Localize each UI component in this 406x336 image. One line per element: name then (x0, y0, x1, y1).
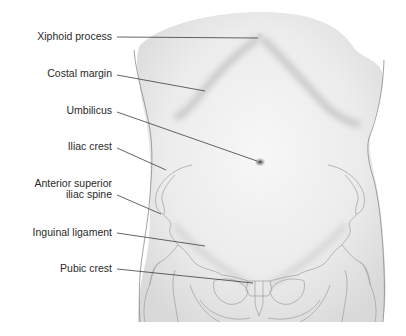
label-pubic-crest: Pubic crest (60, 263, 112, 274)
label-asis-line-2: iliac spine (34, 189, 112, 200)
xiphoid-mark (257, 33, 263, 41)
label-anterior-superior-iliac-spine: Anterior superior iliac spine (34, 178, 112, 200)
label-costal-margin: Costal margin (47, 68, 112, 79)
label-inguinal-ligament: Inguinal ligament (33, 227, 112, 238)
label-umbilicus: Umbilicus (66, 105, 112, 116)
label-xiphoid-process: Xiphoid process (37, 31, 112, 42)
torso-silhouette (137, 12, 386, 322)
abdomen-illustration (0, 0, 406, 336)
label-iliac-crest: Iliac crest (68, 141, 112, 152)
